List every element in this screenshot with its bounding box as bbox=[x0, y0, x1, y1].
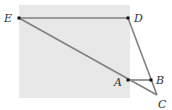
point-b-label: B bbox=[155, 74, 164, 87]
point-a-marker bbox=[127, 79, 130, 82]
point-d-label: D bbox=[133, 12, 143, 25]
point-e-label: E bbox=[3, 12, 12, 25]
geometry-diagram: EDABC bbox=[0, 0, 172, 110]
diagram-svg: EDABC bbox=[0, 0, 172, 110]
point-e-marker bbox=[18, 17, 21, 20]
point-d-marker bbox=[127, 17, 130, 20]
point-a-label: A bbox=[113, 76, 122, 89]
point-b-marker bbox=[150, 79, 153, 82]
segment-dc bbox=[128, 18, 157, 95]
point-c-label: C bbox=[158, 98, 167, 110]
